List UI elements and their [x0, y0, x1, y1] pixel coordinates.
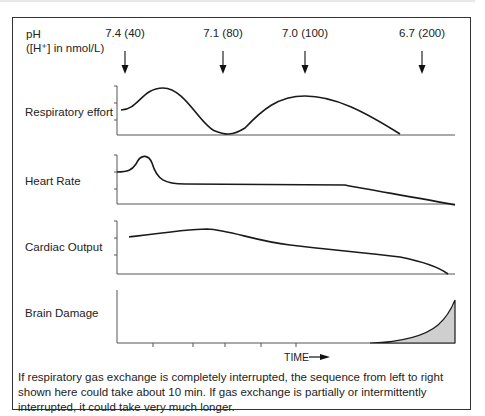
curve-respiratory-effort [121, 88, 400, 134]
arrow-down-icon [122, 65, 129, 74]
curve-cardiac-output [129, 229, 448, 274]
chart-svg [0, 0, 485, 416]
figure-caption: If respiratory gas exchange is completel… [18, 370, 468, 415]
panel-axes [114, 86, 455, 347]
curve-heart-rate [117, 156, 455, 205]
ph-arrows [122, 51, 426, 74]
time-axis-label: TIME [284, 351, 309, 363]
time-arrow-icon [309, 354, 330, 360]
arrow-down-icon [302, 65, 309, 74]
curve-brain-damage [370, 300, 455, 343]
arrow-down-icon [220, 65, 227, 74]
arrow-down-icon [419, 65, 426, 74]
